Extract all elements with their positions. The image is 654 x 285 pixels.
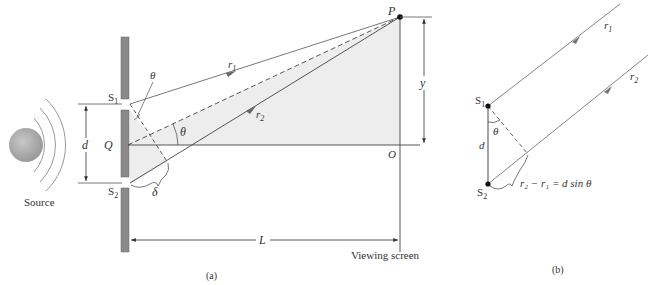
ray-r2-b: [488, 55, 648, 184]
viewing-screen-label: Viewing screen: [351, 249, 420, 261]
d-label: d: [82, 138, 89, 152]
barrier-bottom: [121, 188, 129, 252]
panel-a: Source d S1 S2 Q r1 r2 θ: [9, 4, 432, 282]
theta-arc-b: [488, 120, 500, 123]
caption-a: (a): [206, 270, 217, 282]
r2-label-b: r2: [630, 70, 638, 85]
p-label: P: [387, 4, 396, 18]
barrier-top: [121, 37, 129, 99]
ray-r1-b: [488, 4, 620, 106]
panel-b: r1 r2 θ S1 S2 d r₂ − r₁ = d sin θ (b): [475, 4, 648, 276]
barrier-middle: [121, 110, 129, 177]
source-sphere: [9, 128, 43, 162]
theta-label-top: θ: [150, 69, 156, 81]
d-label-b: d: [479, 139, 485, 151]
caption-b: (b): [552, 264, 564, 276]
s2-label: S2: [108, 185, 118, 200]
r1-label-b: r1: [604, 19, 612, 34]
s2-label-b: S2: [477, 186, 487, 201]
q-label: Q: [104, 138, 113, 152]
s1-point-b: [485, 103, 490, 108]
shaded-slit-region: [130, 110, 168, 184]
source-label: Source: [24, 196, 55, 208]
double-slit-diagram: Source d S1 S2 Q r1 r2 θ: [0, 0, 654, 285]
s2-point-b: [485, 181, 490, 186]
r1-label: r1: [228, 58, 236, 73]
theta-label: θ: [180, 125, 186, 139]
s1-label-b: S1: [475, 94, 485, 109]
y-label: y: [419, 76, 426, 90]
l-label: L: [258, 233, 266, 247]
o-label: O: [388, 148, 396, 160]
equation-label-b: r₂ − r₁ = d sin θ: [520, 177, 592, 189]
theta-label-b: θ: [493, 125, 499, 137]
delta-label: δ: [152, 185, 158, 199]
